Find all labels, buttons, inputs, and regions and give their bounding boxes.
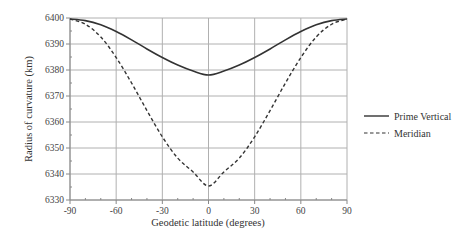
y-tick-label: 6380 [45, 65, 64, 75]
y-tick-label: 6340 [45, 169, 64, 179]
y-tick-label: 6400 [45, 13, 64, 23]
x-tick-label: 0 [206, 206, 211, 216]
x-tick-label: -30 [156, 206, 169, 216]
legend-item-prime-vertical: Prime Vertical [364, 111, 452, 122]
grid-lines [70, 18, 347, 200]
x-axis-title: Geodetic latitude (degrees) [151, 217, 265, 229]
y-tick-labels: 63306340635063606370638063906400 [45, 13, 64, 205]
x-tick-label: 30 [250, 206, 260, 216]
chart: 63306340635063606370638063906400 -90-60-… [0, 0, 470, 240]
legend-label: Meridian [394, 128, 431, 139]
x-tick-labels: -90-60-300306090 [64, 206, 352, 216]
legend-item-meridian: Meridian [364, 128, 431, 139]
y-tick-label: 6370 [45, 91, 64, 101]
y-tick-label: 6360 [45, 117, 64, 127]
y-tick-label: 6390 [45, 39, 64, 49]
x-tick-label: 90 [342, 206, 352, 216]
x-tick-label: -90 [64, 206, 77, 216]
legend-label: Prime Vertical [394, 111, 452, 122]
y-axis-title: Radius of curvature (km) [23, 56, 35, 162]
x-tick-label: 60 [296, 206, 306, 216]
x-tick-label: -60 [110, 206, 123, 216]
y-tick-label: 6350 [45, 143, 64, 153]
legend: Prime Vertical Meridian [364, 111, 452, 139]
axis-ticks [66, 18, 347, 204]
y-tick-label: 6330 [45, 195, 64, 205]
